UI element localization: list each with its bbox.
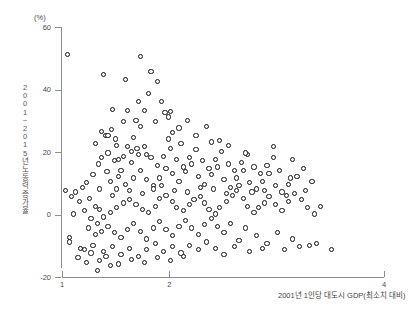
scatter-point [133, 202, 138, 207]
scatter-point [219, 149, 224, 154]
scatter-point [168, 109, 173, 114]
scatter-point [309, 179, 314, 184]
scatter-point [221, 177, 226, 182]
scatter-point [202, 222, 207, 227]
scatter-point [136, 254, 141, 259]
scatter-point [108, 263, 113, 268]
scatter-point [163, 166, 168, 171]
scatter-point [172, 188, 177, 193]
scatter-point [105, 224, 110, 229]
scatter-point [118, 235, 123, 240]
scatter-point [206, 166, 211, 171]
scatter-point [279, 189, 284, 194]
scatter-point [236, 183, 241, 188]
scatter-point [123, 182, 128, 187]
scatter-point [112, 158, 117, 163]
scatter-point [234, 188, 239, 193]
scatter-point [127, 246, 132, 251]
scatter-point [181, 208, 186, 213]
scatter-point [191, 197, 196, 202]
scatter-point [290, 236, 295, 241]
scatter-point [113, 136, 118, 141]
scatter-point [279, 208, 284, 213]
scatter-point [226, 161, 231, 166]
scatter-point [176, 179, 181, 184]
y-axis-tick-label: 0 [25, 210, 51, 219]
scatter-point [146, 91, 151, 96]
scatter-point [166, 114, 171, 119]
scatter-point [239, 160, 244, 165]
scatter-point [262, 200, 267, 205]
scatter-point [161, 154, 166, 159]
scatter-point [101, 249, 106, 254]
scatter-point [153, 241, 158, 246]
scatter-point [157, 196, 162, 201]
scatter-point [178, 250, 183, 255]
scatter-point [264, 241, 269, 246]
scatter-point [170, 199, 175, 204]
scatter-point [251, 164, 256, 169]
scatter-point [266, 171, 271, 176]
scatter-point [181, 164, 186, 169]
scatter-point [196, 174, 201, 179]
scatter-point [87, 196, 92, 201]
scatter-point [307, 243, 312, 248]
scatter-point [157, 219, 162, 224]
scatter-point [112, 230, 117, 235]
scatter-point [140, 191, 145, 196]
scatter-point [142, 144, 147, 149]
scatter-chart: (%) 2001~2015년노동력증가율 2001년 1인당 대도시 GDP(최… [0, 0, 414, 318]
scatter-point [168, 146, 173, 151]
scatter-point [254, 186, 259, 191]
scatter-point [103, 133, 108, 138]
scatter-point [95, 268, 100, 273]
scatter-point [273, 202, 278, 207]
scatter-point [90, 243, 95, 248]
scatter-point [187, 155, 192, 160]
scatter-point [202, 200, 207, 205]
scatter-point [170, 233, 175, 238]
y-axis-tick-label: 40 [25, 85, 51, 94]
scatter-point [251, 210, 256, 215]
scatter-point [153, 204, 158, 209]
scatter-point [299, 197, 304, 202]
scatter-point [84, 180, 89, 185]
scatter-point [144, 177, 149, 182]
scatter-point [127, 197, 132, 202]
scatter-point [241, 196, 246, 201]
scatter-point [170, 244, 175, 249]
scatter-point [131, 175, 136, 180]
scatter-point [80, 185, 85, 190]
x-axis-tick [169, 271, 170, 277]
scatter-point [243, 225, 248, 230]
scatter-point [241, 168, 246, 173]
scatter-point [77, 199, 82, 204]
scatter-point [292, 191, 297, 196]
scatter-point [181, 254, 186, 259]
scatter-point [142, 108, 147, 113]
scatter-point [286, 199, 291, 204]
scatter-point [110, 107, 115, 112]
scatter-point [148, 69, 153, 74]
scatter-point [125, 227, 130, 232]
scatter-point [108, 179, 113, 184]
scatter-point [162, 110, 167, 115]
scatter-point [305, 205, 310, 210]
y-axis-unit-label: (%) [34, 13, 46, 22]
y-axis-tick-label: 20 [25, 148, 51, 157]
scatter-point [159, 99, 164, 104]
scatter-point [114, 186, 119, 191]
scatter-point [176, 224, 181, 229]
scatter-point [185, 189, 190, 194]
scatter-point [230, 193, 235, 198]
scatter-point [271, 155, 276, 160]
scatter-point [189, 161, 194, 166]
scatter-point [116, 174, 121, 179]
scatter-point [109, 127, 114, 132]
scatter-point [118, 168, 123, 173]
scatter-point [82, 208, 87, 213]
scatter-point [138, 229, 143, 234]
x-axis-title: 2001년 1인당 대도시 GDP(최소치 대비) [278, 289, 405, 300]
scatter-point [213, 157, 218, 162]
x-axis-tick-label: 1 [52, 280, 72, 289]
